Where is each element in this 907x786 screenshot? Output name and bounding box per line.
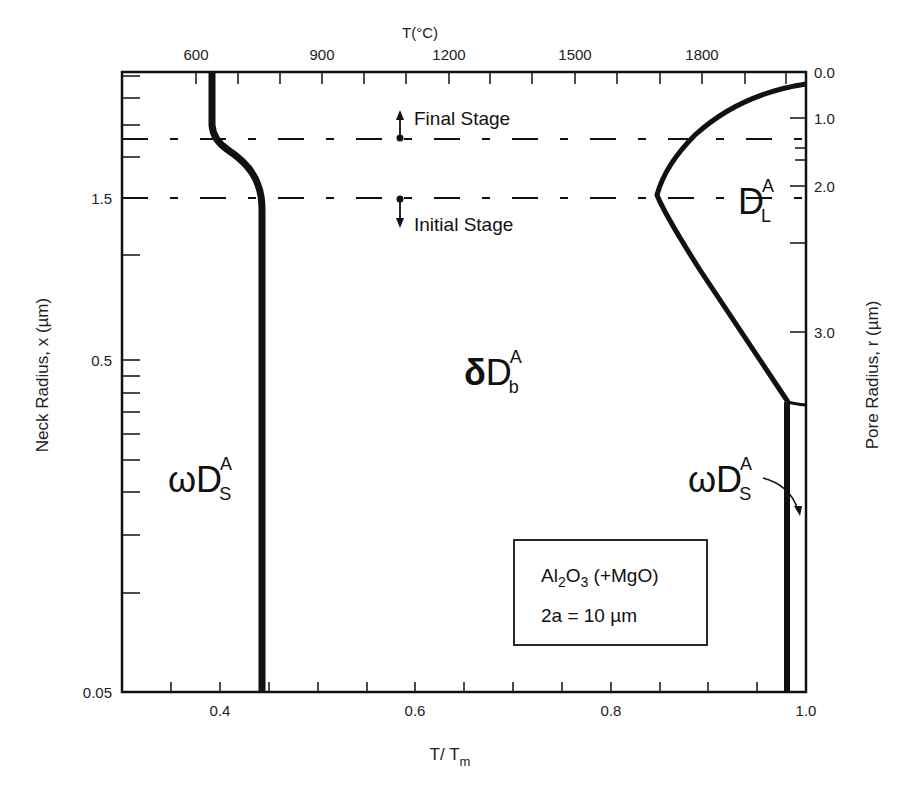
x-top-axis-ticks <box>196 72 786 84</box>
svg-text:0.8: 0.8 <box>601 702 622 719</box>
arrow-head-icon <box>794 506 802 516</box>
svg-text:900: 900 <box>309 46 334 63</box>
y-left-axis-ticks <box>122 76 140 593</box>
y-left-axis-title: Neck Radius, x (µm) <box>33 298 52 452</box>
y-left-tick-labels: 1.5 0.5 0.05 <box>83 190 112 701</box>
svg-text:1.5: 1.5 <box>91 190 112 207</box>
x-top-axis-title: T(°C) <box>402 24 438 41</box>
lattice-boundary-end <box>788 402 806 405</box>
y-right-axis-ticks <box>790 84 806 332</box>
x-tick-labels: 0.4 0.6 0.8 1.0 <box>210 702 817 719</box>
svg-text:1.0: 1.0 <box>796 702 817 719</box>
svg-text:0.0: 0.0 <box>814 64 835 81</box>
svg-text:0.5: 0.5 <box>91 352 112 369</box>
grain-size-label: 2a = 10 µm <box>541 605 637 626</box>
x-axis-title: T/ Tm <box>430 745 471 769</box>
svg-text:1.0: 1.0 <box>814 110 835 127</box>
boundary-diffusion-label: δDAb <box>464 347 522 397</box>
svg-text:600: 600 <box>183 46 208 63</box>
left-boundary-curve <box>212 72 262 692</box>
pointer-arrow <box>763 478 798 510</box>
svg-text:1800: 1800 <box>685 46 718 63</box>
svg-text:0.05: 0.05 <box>83 684 112 701</box>
y-right-tick-labels: 0.0 1.0 2.0 3.0 <box>814 64 835 341</box>
final-stage-label: Final Stage <box>414 108 510 129</box>
svg-text:3.0: 3.0 <box>814 324 835 341</box>
svg-text:0.4: 0.4 <box>210 702 231 719</box>
y-right-axis-title: Pore Radius, r (µm) <box>863 301 882 450</box>
surface-diffusion-label-left: ωDAS <box>168 454 232 504</box>
svg-text:2.0: 2.0 <box>814 178 835 195</box>
lattice-boundary-curve <box>657 84 806 402</box>
material-annotation-box <box>514 540 707 645</box>
svg-text:1500: 1500 <box>558 46 591 63</box>
initial-stage-label: Initial Stage <box>414 214 513 235</box>
x-top-tick-labels: 600 900 1200 1500 1800 <box>183 46 718 63</box>
final-stage-marker <box>396 110 404 142</box>
svg-text:1200: 1200 <box>432 46 465 63</box>
svg-text:0.6: 0.6 <box>405 702 426 719</box>
initial-stage-marker <box>396 196 404 229</box>
sintering-map-chart: 600 900 1200 1500 1800 T(°C) 0.4 0.6 0.8… <box>0 0 907 786</box>
lattice-diffusion-label: DAL <box>738 176 774 226</box>
surface-diffusion-label-right: ωDAS <box>688 454 752 504</box>
